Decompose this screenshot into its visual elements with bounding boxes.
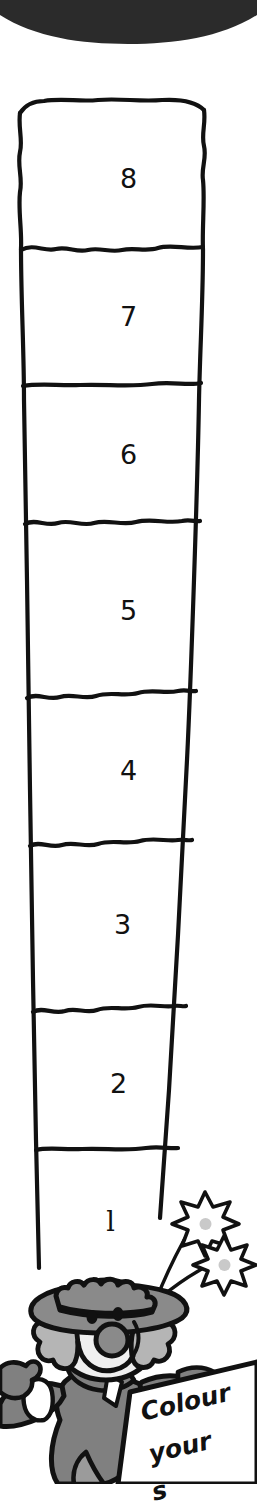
colour-sign [118, 1362, 257, 1484]
clown-head [31, 1279, 187, 1380]
